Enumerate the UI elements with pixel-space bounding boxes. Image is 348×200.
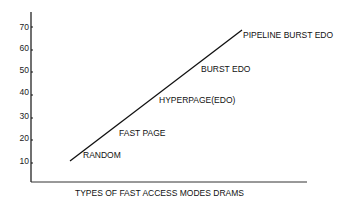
y-tick-70: 70 xyxy=(20,22,30,32)
y-tick-labels: 70 60 50 40 30 20 10 xyxy=(20,22,30,166)
label-random: RANDOM xyxy=(83,150,121,160)
label-fast-page: FAST PAGE xyxy=(119,128,166,138)
label-pipeline-burst-edo: PIPELINE BURST EDO xyxy=(243,30,333,40)
y-tick-10: 10 xyxy=(20,156,30,166)
y-tick-20: 20 xyxy=(20,133,30,143)
y-tick-60: 60 xyxy=(20,43,30,53)
x-axis-label: TYPES OF FAST ACCESS MODES DRAMS xyxy=(75,188,244,198)
label-hyperpage-edo: HYPERPAGE(EDO) xyxy=(159,95,236,105)
y-tick-30: 30 xyxy=(20,111,30,121)
y-tick-40: 40 xyxy=(20,87,30,97)
chart: 70 60 50 40 30 20 10 RANDOM FAST PAGE HY… xyxy=(0,0,348,200)
label-burst-edo: BURST EDO xyxy=(201,64,251,74)
y-tick-50: 50 xyxy=(20,65,30,75)
